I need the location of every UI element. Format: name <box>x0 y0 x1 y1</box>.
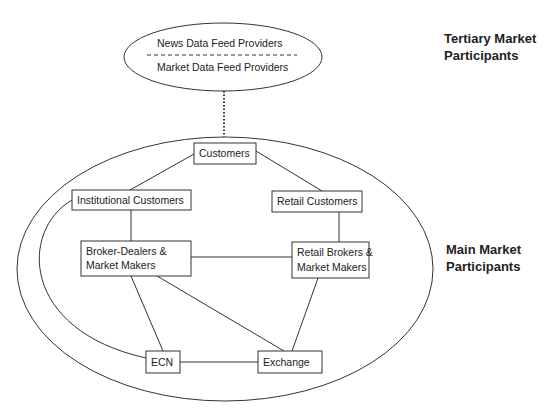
node-ecn-label: ECN <box>151 356 173 368</box>
edge-retailbrokers-exchange <box>292 278 318 351</box>
node-broker-dealers: Broker-Dealers & Market Makers <box>81 241 191 276</box>
node-institutional-customers-label: Institutional Customers <box>77 194 184 206</box>
node-customers-label: Customers <box>199 147 250 159</box>
node-customers: Customers <box>194 143 256 164</box>
node-ecn: ECN <box>146 351 180 373</box>
main-market-label: Main Market Participants <box>446 241 521 275</box>
edge-customers-institutional <box>130 154 194 190</box>
node-retail-brokers: Retail Brokers & Market Makers <box>292 242 373 278</box>
edge-customers-retail <box>256 151 322 191</box>
node-broker-dealers-label-1: Broker-Dealers & <box>86 245 167 257</box>
main-market-label-line2: Participants <box>446 258 521 275</box>
node-retail-brokers-label-2: Market Makers <box>297 261 366 273</box>
market-data-feed-providers: Market Data Feed Providers <box>157 61 288 73</box>
edge-broker-exchange <box>157 276 284 351</box>
edge-broker-ecn <box>131 276 163 351</box>
node-institutional-customers: Institutional Customers <box>72 190 191 210</box>
main-ellipse <box>17 137 433 401</box>
news-data-feed-providers: News Data Feed Providers <box>157 37 282 49</box>
node-retail-customers: Retail Customers <box>272 191 362 212</box>
edge-institutional-ecn-curve <box>39 200 146 358</box>
node-exchange: Exchange <box>258 351 322 373</box>
node-retail-customers-label: Retail Customers <box>277 195 358 207</box>
main-market-label-line1: Main Market <box>446 241 521 258</box>
node-retail-brokers-label-1: Retail Brokers & <box>297 246 373 258</box>
node-broker-dealers-label-2: Market Makers <box>86 259 155 271</box>
tertiary-market-label: Tertiary Market Participants <box>444 30 536 64</box>
node-exchange-label: Exchange <box>263 356 310 368</box>
tertiary-market-label-line2: Participants <box>444 47 536 64</box>
tertiary-market-label-line1: Tertiary Market <box>444 30 536 47</box>
tertiary-ellipse <box>124 23 322 91</box>
